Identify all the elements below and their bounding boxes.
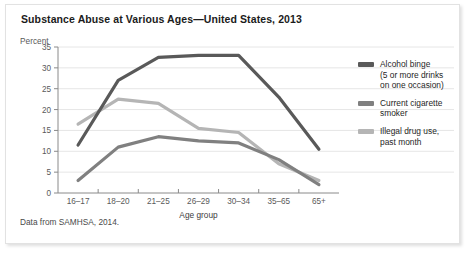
- legend-label-line: on one occasion): [380, 80, 444, 90]
- legend-item-current-cigarette-smoker: Current cigarette smoker: [358, 98, 463, 119]
- legend-label-current-cigarette-smoker: Current cigarette smoker: [380, 98, 442, 119]
- x-tick-label: 26–29: [187, 197, 210, 206]
- legend-label-line: smoker: [380, 108, 407, 118]
- y-tick-label: 20: [42, 106, 52, 115]
- legend-label-line: Alcohol binge: [380, 59, 430, 69]
- legend-item-illegal-drug-use: Illegal drug use, past month: [358, 126, 463, 147]
- legend-swatch-illegal-drug-use: [358, 129, 374, 134]
- x-tick-label: 18–20: [107, 197, 130, 206]
- figure-source-note: Data from SAMHSA, 2014.: [20, 217, 119, 227]
- x-tick-label: 30–34: [227, 197, 250, 206]
- legend-label-line: Current cigarette: [380, 98, 442, 108]
- legend-label-line: (5 or more drinks: [380, 70, 443, 80]
- x-tick-label: 65+: [312, 197, 326, 206]
- y-tick-label: 35: [42, 43, 52, 52]
- y-tick-label: 15: [42, 126, 52, 135]
- x-tick-label: 21–25: [147, 197, 170, 206]
- y-tick-label: 5: [46, 168, 51, 177]
- chart-legend: Alcohol binge (5 or more drinks on one o…: [358, 59, 463, 154]
- legend-label-line: past month: [380, 137, 421, 147]
- legend-item-alcohol-binge: Alcohol binge (5 or more drinks on one o…: [358, 59, 463, 91]
- x-tick-label: 35–65: [267, 197, 290, 206]
- series-line: [78, 137, 319, 185]
- x-tick-label: 16–17: [67, 197, 90, 206]
- x-axis-label: Age group: [179, 210, 218, 220]
- legend-swatch-current-cigarette-smoker: [358, 101, 374, 106]
- y-tick-label: 25: [42, 85, 52, 94]
- legend-label-illegal-drug-use: Illegal drug use, past month: [380, 126, 439, 147]
- legend-swatch-alcohol-binge: [358, 62, 374, 67]
- y-tick-label: 10: [42, 147, 52, 156]
- y-tick-label: 0: [46, 189, 51, 198]
- y-tick-label: 30: [42, 64, 52, 73]
- figure-card: Substance Abuse at Various Ages—United S…: [5, 4, 460, 244]
- legend-label-line: Illegal drug use,: [380, 126, 439, 136]
- legend-label-alcohol-binge: Alcohol binge (5 or more drinks on one o…: [380, 59, 444, 91]
